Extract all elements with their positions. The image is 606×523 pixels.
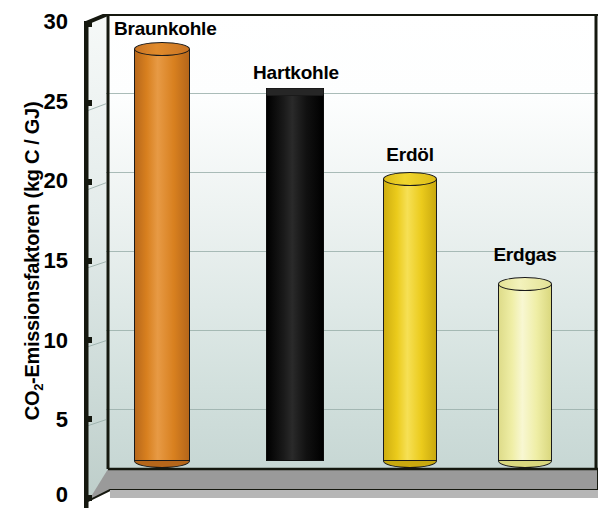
- y-tick-label-10: 10: [22, 330, 68, 352]
- y-axis-tick-labels: 30 25 20 15 10 5 0: [10, 0, 68, 523]
- y-tick-label-0: 0: [22, 484, 68, 506]
- bar-erdoel-top: [383, 172, 437, 186]
- bar-braunkohle: [134, 42, 190, 461]
- co2-emission-factors-chart: CO2-Emissionsfaktoren (kg C / GJ) 30 25 …: [0, 0, 606, 523]
- y-tick-label-15: 15: [22, 250, 68, 272]
- bar-hartkohle-body: [266, 88, 324, 461]
- bar-braunkohle-top: [134, 42, 190, 56]
- bar-label-hartkohle: Hartkohle: [244, 62, 348, 84]
- bar-label-erdgas: Erdgas: [480, 244, 570, 266]
- bar-erdgas-top: [498, 277, 552, 291]
- y-tick-label-30: 30: [22, 11, 68, 33]
- y-tick-label-5: 5: [22, 409, 68, 431]
- bar-erdoel-body: [383, 179, 437, 461]
- bar-label-braunkohle: Braunkohle: [114, 18, 214, 40]
- bar-hartkohle: [266, 88, 324, 461]
- y-tick-label-25: 25: [22, 91, 68, 113]
- bar-braunkohle-body: [134, 49, 190, 461]
- bar-label-erdoel: Erdöl: [370, 144, 450, 166]
- plot-area: Braunkohle Hartkohle Erdöl Erdgas: [84, 14, 598, 508]
- bar-hartkohle-top: [266, 88, 324, 96]
- y-tick-label-20: 20: [22, 170, 68, 192]
- bar-erdgas: [498, 277, 552, 461]
- left-side-wall-3d: [84, 14, 108, 508]
- bar-erdoel: [383, 172, 437, 461]
- bar-erdgas-body: [498, 284, 552, 461]
